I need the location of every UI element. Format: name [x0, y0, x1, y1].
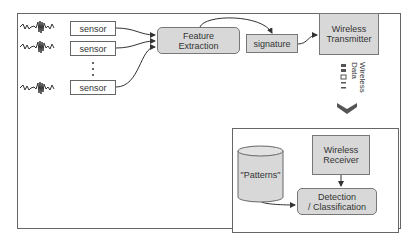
patterns-label: "Patterns"	[238, 170, 283, 180]
detection-line2: / Classification	[308, 202, 366, 212]
ellipsis-dot	[92, 62, 94, 64]
sensor-box-1: sensor	[70, 21, 116, 36]
wireless-data-label: Wireless Data	[350, 62, 366, 93]
wireless-data-line2: Data	[350, 62, 358, 93]
feature-extraction-line1: Feature	[183, 31, 214, 41]
sensor-box-3: sensor	[70, 80, 116, 95]
ellipsis-dot	[92, 68, 94, 70]
wireless-receiver-box: Wireless Receiver	[312, 135, 370, 175]
receiver-line1: Wireless	[324, 145, 359, 155]
transmitter-line1: Wireless	[332, 24, 367, 34]
wireless-data-line1: Wireless	[358, 62, 366, 93]
signal-waveform-icon	[20, 21, 54, 94]
sensor-label: sensor	[79, 24, 106, 34]
chevron-down-icon	[337, 103, 357, 114]
sensor-box-2: sensor	[70, 41, 116, 56]
transmitter-line2: Transmitter	[326, 34, 371, 44]
ellipsis-dot	[92, 74, 94, 76]
sensor-label: sensor	[79, 44, 106, 54]
wireless-transmitter-box: Wireless Transmitter	[319, 13, 379, 55]
feature-extraction-line2: Extraction	[178, 41, 218, 51]
signature-box: signature	[246, 34, 298, 53]
receiver-line2: Receiver	[323, 155, 359, 165]
detection-classification-box: Detection / Classification	[297, 188, 377, 215]
feature-extraction-box: Feature Extraction	[157, 27, 240, 54]
sensor-label: sensor	[79, 83, 106, 93]
detection-line1: Detection	[318, 192, 356, 202]
wireless-data-bars-icon	[341, 64, 346, 89]
signature-label: signature	[253, 39, 290, 49]
patterns-text: "Patterns"	[241, 170, 281, 180]
